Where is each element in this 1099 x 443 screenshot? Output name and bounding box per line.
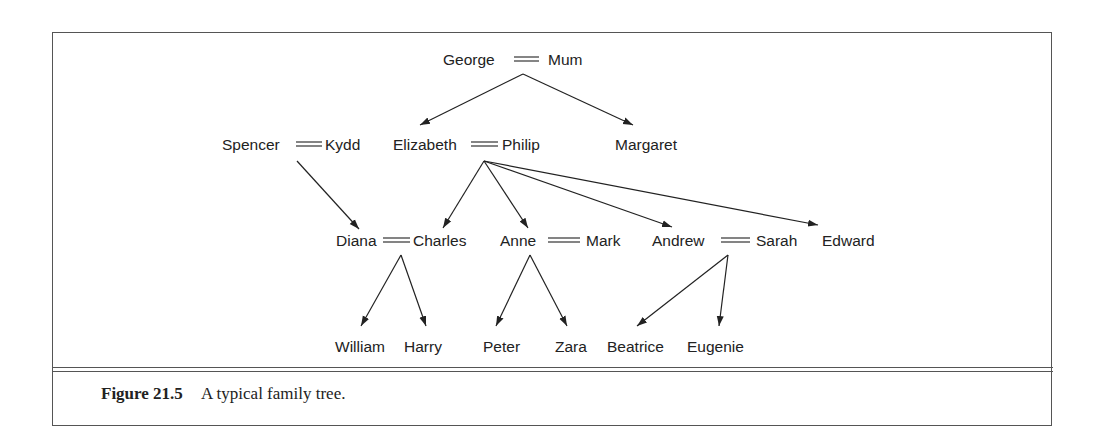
arrow-to-william: [361, 255, 401, 326]
arrow-to-eugenie: [719, 255, 728, 326]
figure-label: Figure 21.5: [101, 384, 201, 404]
person-anne: Anne: [500, 232, 536, 249]
arrow-to-zara: [530, 255, 567, 326]
arrow-to-peter: [496, 255, 530, 326]
person-edward: Edward: [822, 232, 875, 249]
figure-caption-text: A typical family tree.: [201, 384, 345, 403]
arrow-to-edward: [484, 161, 818, 225]
person-harry: Harry: [404, 338, 442, 355]
marriage-diana-charles-icon: [383, 238, 410, 242]
arrow-to-anne: [484, 161, 528, 228]
person-margaret: Margaret: [615, 136, 678, 153]
arrow-to-elizabeth: [420, 74, 523, 125]
marriage-george-mum-icon: [514, 57, 539, 61]
person-philip: Philip: [502, 136, 540, 153]
person-diana: Diana: [336, 232, 377, 249]
family-tree-diagram: George Mum Spencer Kydd Elizabeth Philip…: [0, 0, 1099, 443]
figure-caption: Figure 21.5A typical family tree.: [101, 384, 345, 404]
person-labels: George Mum Spencer Kydd Elizabeth Philip…: [222, 51, 875, 355]
person-spencer: Spencer: [222, 136, 280, 153]
marriage-spencer-kydd-icon: [296, 142, 322, 146]
arrow-to-margaret: [523, 74, 633, 125]
marriage-elizabeth-philip-icon: [471, 142, 498, 146]
arrow-to-andrew: [484, 161, 672, 227]
person-charles: Charles: [413, 232, 467, 249]
arrow-to-harry: [401, 255, 426, 326]
person-andrew: Andrew: [652, 232, 705, 249]
person-george: George: [443, 51, 495, 68]
person-kydd: Kydd: [325, 136, 360, 153]
person-mark: Mark: [586, 232, 621, 249]
descent-arrows: [297, 74, 818, 326]
person-peter: Peter: [483, 338, 520, 355]
arrow-to-diana: [297, 161, 359, 229]
person-sarah: Sarah: [756, 232, 797, 249]
person-elizabeth: Elizabeth: [393, 136, 457, 153]
person-william: William: [335, 338, 385, 355]
marriage-andrew-sarah-icon: [721, 238, 750, 242]
person-mum: Mum: [548, 51, 582, 68]
arrow-to-charles: [443, 161, 484, 228]
arrow-to-beatrice: [637, 255, 728, 326]
marriage-anne-mark-icon: [548, 238, 580, 242]
person-zara: Zara: [555, 338, 587, 355]
person-beatrice: Beatrice: [607, 338, 664, 355]
person-eugenie: Eugenie: [687, 338, 744, 355]
